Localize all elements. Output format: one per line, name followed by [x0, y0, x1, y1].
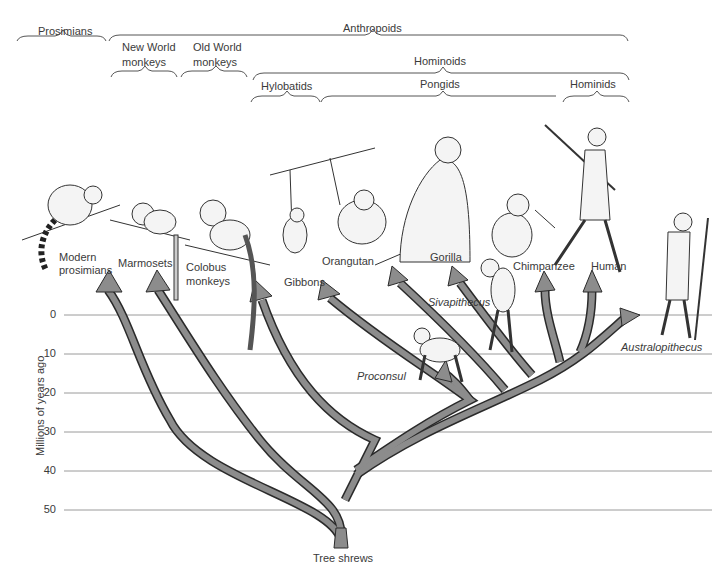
group-label-hominoids: Hominoids [414, 55, 466, 68]
human-illustration [545, 125, 620, 272]
group-label-new-world-2: monkeys [122, 56, 166, 69]
group-label-hominids: Hominids [570, 78, 616, 91]
arrow-chimpanzee [535, 271, 555, 292]
taxon-label-colobus-1: Colobus [186, 261, 226, 274]
axis-tick-50: 50 [34, 503, 56, 515]
taxon-label-marmosets: Marmosets [118, 257, 172, 270]
arrow-human [583, 270, 602, 292]
group-label-old-world-1: Old World [193, 41, 242, 54]
group-label-hylobatids: Hylobatids [261, 80, 312, 93]
orangutan-illustration [330, 158, 410, 265]
group-label-anthropoids: Anthropoids [343, 22, 402, 35]
axis-tick-0: 0 [34, 308, 56, 320]
root-label-tree-shrews: Tree shrews [313, 552, 373, 565]
gorilla-illustration [400, 137, 470, 262]
taxon-label-colobus-2: monkeys [186, 275, 230, 288]
group-label-old-world-2: monkeys [193, 56, 237, 69]
phylogeny-branches [108, 283, 625, 548]
taxon-label-human: Human [591, 260, 626, 273]
taxon-label-chimpanzee: Chimpanzee [513, 260, 575, 273]
taxon-label-gorilla: Gorilla [430, 251, 462, 264]
arrow-proconsul [435, 360, 452, 382]
taxon-label-gibbons: Gibbons [284, 276, 325, 289]
bracket-hominids [563, 91, 629, 102]
axis-tick-40: 40 [34, 464, 56, 476]
bracket-pongids [321, 91, 556, 102]
fossil-label-proconsul: Proconsul [357, 370, 406, 383]
arrow-australopithecus [620, 308, 640, 326]
arrow-marmosets [146, 270, 170, 292]
taxon-label-orangutan: Orangutan [322, 255, 374, 268]
taxonomic-brackets [17, 29, 629, 102]
fossil-label-sivapithecus: Sivapithecus [428, 296, 490, 309]
fossil-label-australopithecus: Australopithecus [621, 341, 702, 354]
group-label-new-world-1: New World [122, 41, 176, 54]
chimpanzee-illustration [492, 194, 555, 257]
group-label-pongids: Pongids [420, 78, 460, 91]
group-label-prosimians: Prosimians [38, 25, 92, 38]
taxon-label-modern-prosimians-1: Modern [59, 251, 96, 264]
australopithecus-illustration [662, 213, 708, 340]
taxon-label-modern-prosimians-2: prosimians [59, 264, 112, 277]
axis-label: Millions of years ago [34, 356, 46, 456]
animal-illustrations [22, 125, 708, 382]
